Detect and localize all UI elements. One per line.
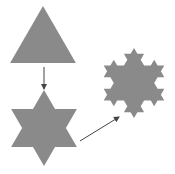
iteration-2-snowflake <box>104 48 165 118</box>
koch-diagram <box>0 0 175 174</box>
arrow-diagonal-icon <box>80 117 119 141</box>
iteration-1-star <box>11 90 77 166</box>
iteration-0-triangle <box>10 6 76 63</box>
